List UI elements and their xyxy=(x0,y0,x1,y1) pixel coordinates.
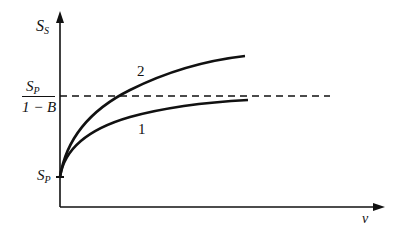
curve-1-label: 1 xyxy=(138,122,146,137)
diagram-canvas xyxy=(0,0,403,230)
asymptote-numerator-sub: P xyxy=(34,85,40,96)
y-axis-label: SS xyxy=(36,18,49,36)
asymptote-numerator-main: S xyxy=(26,78,34,94)
curve-1 xyxy=(60,100,248,177)
curve-2-label: 2 xyxy=(137,64,145,79)
y-axis-label-main: S xyxy=(36,17,44,34)
start-label-sub: P xyxy=(45,174,51,185)
x-axis-label: v xyxy=(362,212,368,226)
curve-2 xyxy=(60,56,245,177)
asymptote-label-numerator: SP xyxy=(26,78,40,96)
y-axis-label-sub: S xyxy=(44,25,49,36)
start-label: SP xyxy=(37,168,51,185)
y-axis-arrow-icon xyxy=(56,11,64,23)
asymptote-fraction-bar xyxy=(22,96,55,97)
start-label-main: S xyxy=(37,167,45,183)
x-axis-arrow-icon xyxy=(373,203,385,211)
asymptote-label-denominator: 1 − B xyxy=(22,99,56,116)
